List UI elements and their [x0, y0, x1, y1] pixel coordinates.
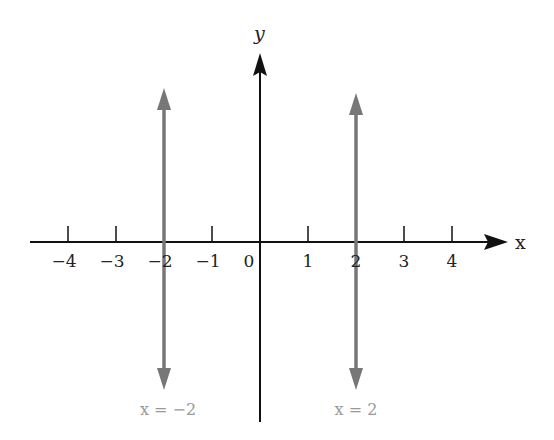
- x-tick-label: −3: [99, 251, 124, 271]
- axes: [30, 53, 508, 422]
- y-axis-label: y: [253, 22, 265, 44]
- x-tick-label: 2: [351, 251, 362, 271]
- x-tick-label: −1: [195, 251, 220, 271]
- line-arrowhead-up: [349, 93, 363, 115]
- coordinate-plane: −4−3−2−101234xyx = −2x = 2: [0, 0, 554, 440]
- x-tick-label: 4: [447, 251, 458, 271]
- x-tick-label: −4: [51, 251, 76, 271]
- equation-label: x = −2: [140, 400, 196, 419]
- x-tick-label: 1: [303, 251, 314, 271]
- line-arrowhead-down: [157, 368, 171, 390]
- line-arrowhead-up: [157, 88, 171, 110]
- x-tick-label: −2: [147, 251, 172, 271]
- x-tick-label: 3: [399, 251, 410, 271]
- x-tick-label: 0: [244, 251, 255, 271]
- x-axis-label: x: [515, 231, 526, 253]
- labels: −4−3−2−101234xyx = −2x = 2: [51, 22, 526, 419]
- equation-label: x = 2: [335, 400, 378, 419]
- line-arrowhead-down: [349, 368, 363, 390]
